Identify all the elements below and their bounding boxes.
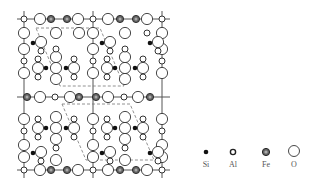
al-atom xyxy=(159,16,165,22)
al-atom xyxy=(53,46,59,52)
o-atom xyxy=(35,146,46,157)
al-atom xyxy=(35,134,41,140)
al-atom xyxy=(71,74,77,80)
fe-atom xyxy=(47,15,54,22)
al-atom xyxy=(90,128,96,134)
si-atom xyxy=(31,41,36,46)
si-atom xyxy=(100,151,105,156)
o-atom xyxy=(18,67,29,78)
o-atom xyxy=(156,67,167,78)
o-atom xyxy=(32,62,43,73)
al-atom xyxy=(121,94,127,100)
fe-atom xyxy=(47,166,54,173)
al-atom xyxy=(52,94,58,100)
si-atom-icon xyxy=(200,146,212,158)
o-atom xyxy=(72,13,83,24)
al-atom xyxy=(35,56,41,62)
legend-label: O xyxy=(282,160,306,169)
al-atom xyxy=(104,74,110,80)
si-atom xyxy=(44,126,49,131)
o-atom xyxy=(141,164,152,175)
al-atom xyxy=(53,145,59,151)
si-atom xyxy=(44,66,49,71)
al-atom xyxy=(21,16,27,22)
al-atom xyxy=(71,56,77,62)
fe-atom xyxy=(116,15,123,22)
o-atom xyxy=(18,43,29,54)
o-atom xyxy=(152,146,163,157)
si-atom xyxy=(100,41,105,46)
o-atom xyxy=(18,27,29,38)
al-atom xyxy=(107,158,113,164)
al-atom xyxy=(122,46,128,52)
o-atom xyxy=(18,139,29,150)
o-atom xyxy=(101,62,112,73)
o-atom xyxy=(50,73,61,84)
al-atom xyxy=(144,30,150,36)
al-atom xyxy=(38,158,44,164)
al-atom xyxy=(71,134,77,140)
o-atom xyxy=(141,13,152,24)
al-atom xyxy=(140,74,146,80)
al-atom xyxy=(140,116,146,122)
o-atom xyxy=(87,27,98,38)
crystal-structure-diagram xyxy=(0,0,323,181)
fe-atom xyxy=(92,93,99,100)
fe-atom xyxy=(23,93,30,100)
o-atom xyxy=(132,91,143,102)
fe-atom-icon xyxy=(259,145,273,159)
o-atom xyxy=(101,122,112,133)
fe-atom xyxy=(132,15,139,22)
o-atom xyxy=(137,122,148,133)
o-atom xyxy=(119,154,130,165)
o-atom xyxy=(119,111,130,122)
o-atom xyxy=(18,113,29,124)
si-atom xyxy=(133,126,138,131)
al-atom xyxy=(104,56,110,62)
legend-label: Al xyxy=(221,160,245,169)
al-atom xyxy=(159,167,165,173)
al-atom xyxy=(155,48,161,54)
o-atom xyxy=(87,43,98,54)
al-atom xyxy=(90,58,96,64)
al-atom xyxy=(140,134,146,140)
o-atom xyxy=(137,62,148,73)
o-atom xyxy=(50,51,61,62)
o-atom xyxy=(119,122,130,133)
o-atom xyxy=(50,133,61,144)
al-atom xyxy=(21,128,27,134)
si-atom xyxy=(64,126,69,131)
al-atom-icon xyxy=(227,146,239,158)
al-atom xyxy=(159,58,165,64)
o-atom xyxy=(50,111,61,122)
o-atom xyxy=(50,122,61,133)
o-atom xyxy=(104,146,115,157)
al-atom xyxy=(122,145,128,151)
o-atom xyxy=(156,113,167,124)
o-atom xyxy=(87,67,98,78)
al-atom xyxy=(155,158,161,164)
o-atom xyxy=(119,27,130,38)
o-atom xyxy=(32,122,43,133)
o-atom xyxy=(102,164,113,175)
o-atom xyxy=(50,154,61,165)
al-atom xyxy=(104,134,110,140)
o-atom xyxy=(119,62,130,73)
o-atom-icon xyxy=(286,143,302,159)
si-atom xyxy=(148,41,153,46)
legend-label: Si xyxy=(194,160,218,169)
legend-label: Fe xyxy=(254,160,278,169)
o-atom xyxy=(18,151,29,162)
fe-atom xyxy=(63,166,70,173)
si-atom xyxy=(64,66,69,71)
o-atom xyxy=(87,139,98,150)
fe-atom xyxy=(63,15,70,22)
o-atom xyxy=(87,151,98,162)
o-atom xyxy=(152,36,163,47)
si-atom xyxy=(113,66,118,71)
al-atom xyxy=(159,128,165,134)
fe-atom xyxy=(75,93,82,100)
o-atom xyxy=(68,62,79,73)
si-atom xyxy=(148,151,153,156)
o-atom xyxy=(87,113,98,124)
